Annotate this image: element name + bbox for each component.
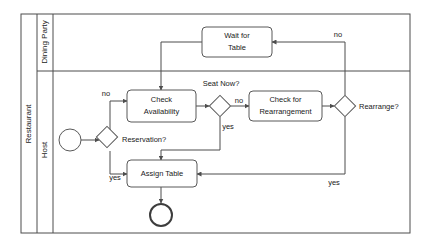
- task-label-check-rearrangement-line2: Rearrangement: [259, 107, 312, 116]
- node-end-event[interactable]: [150, 204, 172, 226]
- task-label-check-availability-line1: Check: [151, 95, 173, 104]
- node-task-check-availability[interactable]: Check Availability: [127, 90, 196, 122]
- gateway-label-reservation: Reservation?: [122, 135, 166, 144]
- edge-label-rearrange-yes: yes: [328, 178, 340, 187]
- lane-label-dining-party: Dining Party: [40, 20, 49, 64]
- node-start-event[interactable]: [59, 129, 81, 151]
- lane-label-host: Host: [40, 141, 49, 158]
- edge-label-reservation-no: no: [102, 89, 110, 98]
- task-label-assign-table: Assign Table: [141, 169, 183, 178]
- node-task-wait-for-table[interactable]: Wait for Table: [202, 27, 272, 57]
- task-label-wait-for-table-line2: Table: [228, 43, 246, 52]
- edge-label-reservation-yes: yes: [109, 173, 121, 182]
- lane-host: Host: [40, 141, 49, 158]
- task-label-wait-for-table-line1: Wait for: [224, 31, 250, 40]
- node-task-check-rearrangement[interactable]: Check for Rearrangement: [249, 91, 322, 121]
- edge-label-seat-now-yes: yes: [222, 122, 234, 131]
- gateway-label-seat-now: Seat Now?: [203, 79, 240, 88]
- pool-label-restaurant: Restaurant: [24, 104, 33, 144]
- task-label-check-rearrangement-line1: Check for: [269, 95, 302, 104]
- gateway-label-rearrange: Rearrange?: [359, 102, 399, 111]
- edge-label-rearrange-no: no: [334, 30, 342, 39]
- diagram-svg: Restaurant Dining Party Host: [0, 0, 429, 247]
- edge-label-seat-now-no: no: [235, 96, 243, 105]
- node-task-assign-table[interactable]: Assign Table: [127, 160, 197, 187]
- task-label-check-availability-line2: Availability: [144, 107, 180, 116]
- bpmn-diagram-canvas: Restaurant Dining Party Host: [0, 0, 429, 247]
